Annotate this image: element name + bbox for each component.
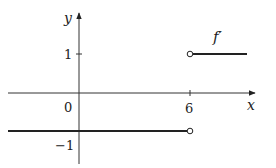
- open-point-upper: [187, 51, 193, 57]
- y-axis-label: y: [63, 10, 73, 26]
- y-tick-label-minus-1: −1: [55, 138, 74, 153]
- y-tick-label-1: 1: [64, 47, 72, 62]
- open-point-lower: [187, 128, 193, 134]
- origin-label: 0: [64, 100, 72, 115]
- x-axis-label: x: [247, 97, 255, 113]
- x-tick-label-6: 6: [185, 101, 193, 116]
- derivative-graph: y x 1 −1 0 6 f′: [0, 0, 276, 168]
- function-label: f′: [212, 28, 223, 46]
